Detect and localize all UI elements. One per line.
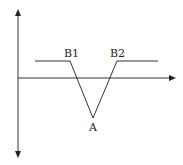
arrow-right-icon [169, 75, 176, 81]
arrow-up-icon [15, 9, 21, 16]
label-b1: B1 [64, 47, 79, 60]
horizontal-axis [18, 75, 176, 81]
label-a: A [88, 121, 98, 134]
profile-line [35, 61, 158, 118]
vertical-axis [15, 9, 21, 158]
arrow-down-icon [15, 151, 21, 158]
v-profile-diagram: B1 B2 A [0, 0, 183, 165]
label-b2: B2 [110, 47, 125, 60]
